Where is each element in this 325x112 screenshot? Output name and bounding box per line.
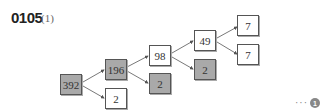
tree-node-2-prime: 2 bbox=[105, 88, 127, 109]
node-value: 2 bbox=[113, 93, 119, 105]
tree-node-7-bottom: 7 bbox=[237, 44, 259, 65]
circled-number-icon: 1 bbox=[310, 98, 320, 108]
tree-node-2-shaded: 2 bbox=[149, 73, 171, 94]
tree-node-49: 49 bbox=[194, 30, 216, 51]
tree-node-7-top: 7 bbox=[237, 15, 259, 36]
node-value: 2 bbox=[157, 78, 163, 90]
answer-marker: ··· 1 bbox=[295, 98, 320, 108]
node-value: 2 bbox=[202, 64, 208, 76]
node-value: 98 bbox=[155, 50, 166, 62]
tree-node-196: 196 bbox=[105, 59, 127, 80]
node-value: 7 bbox=[245, 20, 251, 32]
tree-node-98: 98 bbox=[149, 45, 171, 66]
node-value: 392 bbox=[63, 79, 80, 91]
tree-node-2-shaded: 2 bbox=[194, 59, 216, 80]
ellipsis: ··· bbox=[295, 98, 308, 108]
node-value: 7 bbox=[245, 49, 251, 61]
node-value: 196 bbox=[108, 64, 125, 76]
tree-node-392: 392 bbox=[60, 74, 82, 95]
node-value: 49 bbox=[200, 35, 211, 47]
